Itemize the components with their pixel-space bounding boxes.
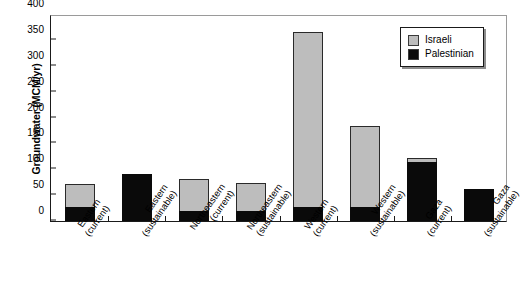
y-tick-label: 200 bbox=[27, 103, 51, 113]
y-tick-label: 100 bbox=[27, 154, 51, 164]
stacked-bar bbox=[293, 32, 323, 221]
x-tick-mark bbox=[451, 216, 452, 221]
bar-slot bbox=[122, 16, 152, 221]
legend-item: Israeli bbox=[408, 33, 474, 47]
bar-slot bbox=[65, 16, 95, 221]
y-tick-label: 0 bbox=[38, 206, 51, 216]
x-tick-mark bbox=[280, 216, 281, 221]
y-tick-label: 350 bbox=[27, 25, 51, 35]
legend-swatch-israeli bbox=[408, 35, 419, 46]
x-tick-mark bbox=[337, 216, 338, 221]
y-axis-title: Groundwater (MCM/yr) bbox=[30, 14, 42, 224]
x-tick-mark bbox=[394, 216, 395, 221]
x-tick-mark bbox=[165, 216, 166, 221]
x-tick-mark bbox=[222, 216, 223, 221]
bar-slot bbox=[236, 16, 266, 221]
y-tick-label: 400 bbox=[27, 0, 51, 9]
x-tick-mark bbox=[108, 216, 109, 221]
bar-slot bbox=[293, 16, 323, 221]
legend-label: Palestinian bbox=[425, 49, 474, 59]
chart-legend: IsraeliPalestinian bbox=[400, 27, 484, 67]
legend-label: Israeli bbox=[425, 35, 452, 45]
y-tick-label: 250 bbox=[27, 77, 51, 87]
y-tick-label: 50 bbox=[33, 180, 51, 190]
y-tick-label: 300 bbox=[27, 51, 51, 61]
legend-item: Palestinian bbox=[408, 47, 474, 61]
legend-swatch-palestinian bbox=[408, 49, 419, 60]
bar-slot bbox=[179, 16, 209, 221]
bar-slot bbox=[350, 16, 380, 221]
y-tick-label: 150 bbox=[27, 128, 51, 138]
